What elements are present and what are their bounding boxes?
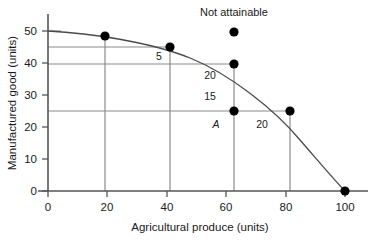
data-point-60-40 <box>229 59 238 68</box>
y-axis-ticks <box>42 31 48 191</box>
chart-container: 0 10 20 30 40 50 0 20 40 60 80 100 Agric… <box>0 0 380 244</box>
annotation-gap-15: 15 <box>204 90 216 102</box>
ppf-chart-svg: 0 10 20 30 40 50 0 20 40 60 80 100 Agric… <box>0 0 380 244</box>
data-point-40-45 <box>165 42 174 51</box>
vertical-guide-lines <box>105 36 290 191</box>
x-tick-label-0: 0 <box>45 201 51 213</box>
data-point-a-60-25 <box>229 106 238 115</box>
y-tick-label-50: 50 <box>24 25 37 37</box>
y-tick-label-20: 20 <box>24 121 37 133</box>
x-tick-label-40: 40 <box>161 201 174 213</box>
x-tick-label-20: 20 <box>101 201 114 213</box>
y-axis-title: Manufactured good (units) <box>6 36 18 170</box>
data-point-100-0 <box>340 186 349 195</box>
annotation-gap-20-lower: 20 <box>256 118 268 130</box>
x-tick-label-60: 60 <box>220 201 233 213</box>
x-tick-label-100: 100 <box>335 201 354 213</box>
data-point-not-attainable <box>229 27 238 36</box>
y-tick-label-40: 40 <box>24 57 37 69</box>
chart-axes <box>38 14 368 191</box>
data-point-20-48 <box>100 31 109 40</box>
y-tick-label-0: 0 <box>31 185 37 197</box>
x-tick-label-80: 80 <box>280 201 293 213</box>
data-points <box>100 31 349 195</box>
y-axis-tick-labels: 0 10 20 30 40 50 <box>24 25 37 197</box>
x-axis-title: Agricultural produce (units) <box>131 221 269 233</box>
y-tick-label-10: 10 <box>24 153 37 165</box>
x-axis-tick-labels: 0 20 40 60 80 100 <box>45 201 355 213</box>
annotation-point-a: A <box>211 118 219 130</box>
x-axis-ticks <box>48 191 345 197</box>
annotation-not-attainable: Not attainable <box>200 6 268 18</box>
data-point-80-25 <box>285 106 294 115</box>
annotation-gap-20-upper: 20 <box>204 69 216 81</box>
annotation-gap-5: 5 <box>156 50 162 62</box>
y-tick-label-30: 30 <box>24 89 37 101</box>
